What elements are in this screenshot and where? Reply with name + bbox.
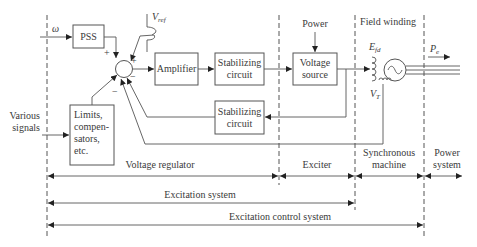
vref-plus-sign: + [131,55,137,66]
vt-label: VT [370,88,381,101]
generator-icon [384,59,406,81]
limits-label-2: compen- [74,121,109,132]
limits-label-3: sators, [74,133,100,144]
minus-sign-right: − [130,71,136,82]
field-coil-icon [372,57,376,81]
power-system-label-2: system [433,159,461,170]
efd-label: Efd [368,41,381,54]
stab-bottom-label-2: circuit [227,118,253,129]
stabilizing-circuit-forward: Stabilizing circuit [215,53,264,85]
various-signals-label-1: Various [9,110,40,121]
excitation-diagram: ω PSS + Vref + − − Amplifier Stabilizing… [0,0,477,247]
voltage-source-label-1: Voltage [300,57,331,68]
power-label: Power [302,18,328,29]
limits-compensators-block: Limits, compen- sators, etc. [70,105,114,165]
amplifier-label: Amplifier [157,63,197,74]
pss-label: PSS [80,31,97,42]
voltage-source-label-2: source [302,69,329,80]
amplifier-block: Amplifier [155,53,198,85]
omega-label: ω [52,23,59,34]
stab-bottom-label-1: Stabilizing [218,106,261,117]
limits-label-4: etc. [74,145,88,156]
stab-top-label-1: Stabilizing [218,57,261,68]
power-system-label-1: Power [434,147,460,158]
pss-block: PSS [73,25,104,48]
minus-sign-left: − [112,86,118,97]
voltage-source-block: Voltage source [293,53,337,85]
pss-plus-sign: + [104,47,110,58]
omega-input: ω [40,23,72,37]
field-winding-label: Field winding [360,16,416,27]
excitation-system-label: Excitation system [164,189,236,200]
limits-label-1: Limits, [74,109,103,120]
sync-machine-label-2: machine [372,159,406,170]
pe-label: Pe [429,43,439,56]
exciter-label: Exciter [303,159,333,170]
stabilizing-circuit-feedback: Stabilizing circuit [215,101,264,134]
sync-machine-label-1: Synchronous [363,147,415,158]
vref-label: Vref [152,11,167,24]
voltage-regulator-label: Voltage regulator [126,159,196,170]
excitation-control-system-label: Excitation control system [229,211,331,222]
stab-top-label-2: circuit [227,69,253,80]
various-signals-label-2: signals [12,122,40,133]
